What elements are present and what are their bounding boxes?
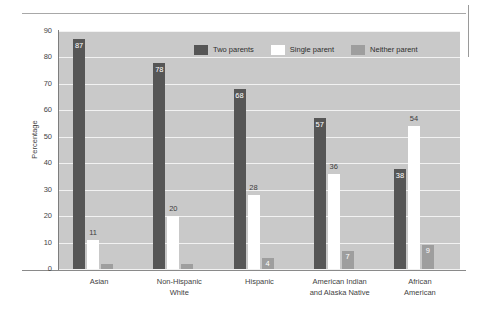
y-tick-label: 10: [0, 239, 52, 247]
bar[interactable]: 68: [234, 89, 246, 269]
bar[interactable]: 36: [328, 174, 340, 269]
bar-group: 38549: [394, 31, 434, 269]
bar-group: 7820: [153, 31, 193, 269]
bar-value-label: 28: [249, 184, 257, 192]
bar-value-label: 20: [169, 205, 177, 213]
y-tick-label: 20: [0, 212, 52, 220]
bar[interactable]: 11: [87, 240, 99, 269]
x-axis-line: [22, 270, 466, 271]
bar-value-label: 68: [235, 92, 243, 100]
bar[interactable]: [101, 264, 113, 269]
y-tick-label: 90: [0, 27, 52, 35]
bar[interactable]: [181, 264, 193, 269]
legend-swatch-icon: [194, 45, 208, 55]
bar[interactable]: 4: [262, 258, 274, 269]
x-category-label: Non-Hispanic White: [134, 276, 224, 298]
legend-label: Neither parent: [370, 46, 418, 54]
bar-value-label: 36: [330, 163, 338, 171]
legend-swatch-icon: [351, 45, 365, 55]
bar-value-label: 7: [346, 253, 350, 261]
legend-item[interactable]: Two parents: [194, 45, 254, 55]
bar[interactable]: 78: [153, 63, 165, 269]
bar-group: 8711: [73, 31, 113, 269]
x-category-label: American Indian and Alaska Native: [295, 276, 385, 298]
right-divider-rule: [468, 5, 469, 57]
legend-item[interactable]: Neither parent: [351, 45, 418, 55]
bar[interactable]: 57: [314, 118, 326, 269]
y-tick-label: 80: [0, 53, 52, 61]
bar-value-label: 4: [265, 260, 269, 268]
plot-area: 87117820682845736738549 Two parentsSingl…: [59, 31, 460, 269]
y-tick-label: 60: [0, 106, 52, 114]
chart-legend: Two parentsSingle parentNeither parent: [194, 45, 418, 55]
bar-group: 57367: [314, 31, 354, 269]
bar[interactable]: 87: [73, 39, 85, 269]
bar-value-label: 38: [396, 172, 404, 180]
legend-item[interactable]: Single parent: [271, 45, 334, 55]
y-tick-label: 50: [0, 133, 52, 141]
x-category-label: Asian: [54, 276, 144, 287]
y-tick-label: 30: [0, 186, 52, 194]
top-divider-rule: [22, 13, 466, 14]
bar-group: 68284: [234, 31, 274, 269]
bar[interactable]: 7: [342, 251, 354, 270]
legend-label: Single parent: [290, 46, 334, 54]
gridline: [59, 269, 460, 270]
bar-value-label: 54: [410, 115, 418, 123]
y-tick-label: 0: [0, 265, 52, 273]
bar[interactable]: 20: [167, 216, 179, 269]
legend-label: Two parents: [213, 46, 254, 54]
y-tick-label: 70: [0, 80, 52, 88]
bar-value-label: 78: [155, 66, 163, 74]
bar[interactable]: 38: [394, 169, 406, 269]
bar[interactable]: 28: [248, 195, 260, 269]
y-tick-label: 40: [0, 159, 52, 167]
bar[interactable]: 9: [422, 245, 434, 269]
bar-value-label: 9: [426, 247, 430, 255]
chart-figure: Percentage 0102030405060708090 871178206…: [0, 0, 488, 322]
x-category-label: Hispanic: [215, 276, 305, 287]
bar-value-label: 87: [75, 42, 83, 50]
legend-swatch-icon: [271, 45, 285, 55]
bar-value-label: 11: [89, 229, 97, 237]
bar-value-label: 57: [316, 121, 324, 129]
x-category-label: African American: [375, 276, 465, 298]
bar[interactable]: 54: [408, 126, 420, 269]
